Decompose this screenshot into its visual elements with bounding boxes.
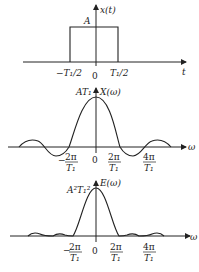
tick-zero: 0 — [92, 155, 98, 165]
tick-neg2pi-num: 2π — [65, 152, 77, 162]
tick-pos-half-T1: T₁/2 — [110, 68, 129, 78]
tick-neg2pi-den: T₁ — [66, 163, 76, 173]
y-label-xt: x(t) — [100, 5, 116, 15]
tick-pos2pi-num: 2π — [108, 152, 120, 162]
amplitude-label-A: A — [83, 16, 91, 26]
rect-pulse — [70, 27, 118, 62]
tick-zero: 0 — [92, 246, 98, 256]
tick-neg2pi-num: 2π — [69, 242, 81, 252]
amplitude-label-A2T12: A²T₁² — [66, 185, 91, 195]
tick-neg-half-T1: −T₁/2 — [56, 68, 82, 78]
tick-pos4pi-num: 4π — [143, 242, 155, 252]
tick-pos4pi-num: 4π — [143, 152, 155, 162]
tick-neg2pi-den: T₁ — [70, 253, 80, 263]
y-label-Ew: E(ω) — [99, 178, 121, 188]
tick-pos2pi-num: 2π — [110, 242, 122, 252]
signal-diagram: x(t) A t −T₁/2 0 T₁/2 AT₁ X(ω) ω − 2π T₁… — [0, 0, 199, 272]
tick-pos4pi-den: T₁ — [144, 163, 154, 173]
tick-pos2pi-den: T₁ — [111, 253, 121, 263]
tick-pos2pi-den: T₁ — [109, 163, 119, 173]
time-domain-panel: x(t) A t −T₁/2 0 T₁/2 — [23, 5, 186, 81]
x-label-omega-energy: ω — [190, 232, 198, 242]
x-label-omega: ω — [188, 142, 196, 152]
energy-spectrum-panel: A²T₁² E(ω) ω − 2π T₁ 0 2π T₁ 4π T₁ — [10, 178, 198, 263]
amplitude-label-AT1: AT₁ — [75, 87, 92, 97]
tick-zero: 0 — [92, 71, 98, 81]
y-label-Xw: X(ω) — [99, 87, 121, 97]
x-label-t: t — [182, 67, 186, 77]
spectrum-panel: AT₁ X(ω) ω − 2π T₁ 0 2π T₁ 4π T₁ — [8, 87, 196, 173]
tick-pos4pi-den: T₁ — [144, 253, 154, 263]
